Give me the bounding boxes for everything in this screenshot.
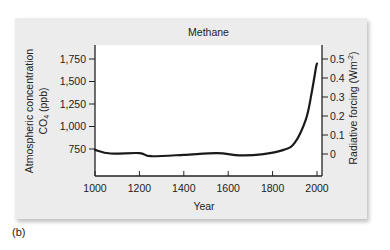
x-tick-label: 1600 [217, 182, 241, 194]
y-tick-label: 1,750 [60, 53, 86, 65]
y2-tick-label: 0.3 [330, 91, 345, 103]
y2-axis-label: Radiative forcing (Wm-2) [347, 51, 359, 164]
x-axis-label: Year [193, 200, 215, 212]
y-axis-label-line1: Atmospheric concentration [23, 49, 35, 173]
x-tick-label: 1800 [261, 182, 285, 194]
methane-line [95, 64, 317, 157]
y-tick-label: 1,000 [60, 120, 86, 132]
y2-tick-label: 0 [330, 148, 336, 160]
y2-tick-label: 0.4 [330, 72, 345, 84]
x-ticks: 100012001400160018002000 [83, 171, 329, 194]
y-ticks: 1,7501,5001,2501,000750 [60, 53, 95, 155]
y-tick-label: 1,250 [60, 98, 86, 110]
y-axis-label-line2: CO4 (ppb) [37, 87, 50, 134]
y-tick-label: 750 [68, 143, 86, 155]
x-tick-label: 1400 [172, 182, 196, 194]
x-tick-label: 1200 [128, 182, 152, 194]
y2-tick-label: 0.1 [330, 129, 345, 141]
y2-tick-label: 0.5 [330, 53, 345, 65]
x-tick-label: 2000 [305, 182, 329, 194]
x-tick-label: 1000 [83, 182, 107, 194]
panel-label: (b) [12, 226, 25, 238]
methane-chart: 1,7501,5001,2501,000750 0.50.40.30.20.10… [0, 0, 390, 250]
y-tick-label: 1,500 [60, 75, 86, 87]
y2-ticks: 0.50.40.30.20.10 [322, 53, 345, 160]
y2-tick-label: 0.2 [330, 110, 345, 122]
